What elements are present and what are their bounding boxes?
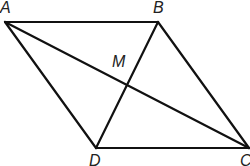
label-b: B [153, 0, 164, 16]
side-bc [158, 22, 249, 148]
side-da [5, 22, 96, 148]
diagonal-bd [96, 22, 158, 148]
label-d: D [89, 152, 101, 166]
parallelogram-diagram: A B M D C [0, 0, 250, 166]
label-c: C [240, 152, 250, 166]
diagonals [5, 22, 249, 148]
label-a: A [0, 0, 11, 16]
label-m: M [112, 53, 126, 70]
